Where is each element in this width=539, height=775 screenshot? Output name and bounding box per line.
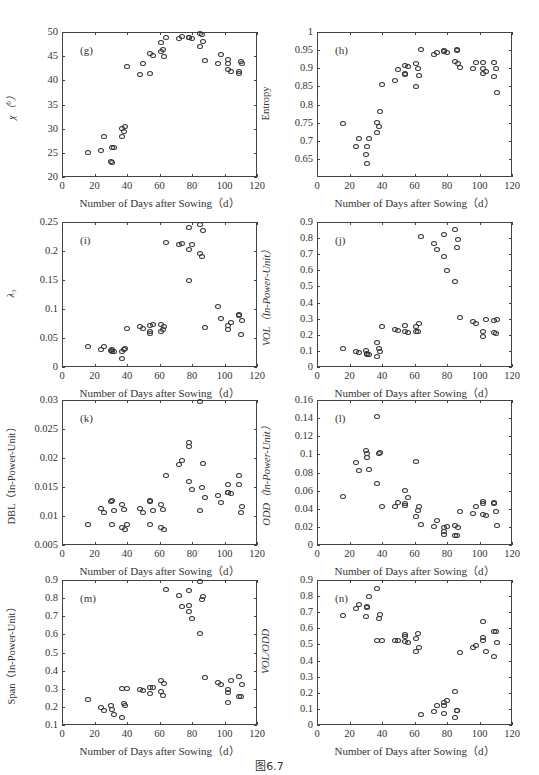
y-tick-mark (254, 707, 257, 708)
y-tick-mark (509, 254, 512, 255)
x-tick-mark (350, 364, 351, 367)
data-point (109, 160, 115, 165)
y-tick-mark (317, 123, 320, 124)
y-tick-label: 0.7 (273, 607, 313, 618)
y-tick-mark (62, 153, 65, 154)
data-point (457, 650, 463, 655)
data-point (340, 494, 346, 499)
x-tick-mark (127, 174, 128, 177)
panel-tag: (j) (335, 234, 345, 246)
data-point (147, 499, 153, 504)
x-tick-label: 100 (465, 549, 495, 560)
y-tick-mark (509, 725, 512, 726)
x-tick-label: 60 (145, 549, 175, 560)
data-point (363, 614, 369, 619)
x-tick-mark (257, 32, 258, 35)
y-tick-label: 0.3 (273, 672, 313, 683)
y-tick-mark (509, 238, 512, 239)
data-point (163, 587, 169, 592)
x-tick-label: 40 (112, 549, 142, 560)
y-tick-mark (509, 319, 512, 320)
y-tick-mark (317, 270, 320, 271)
y-tick-mark (509, 367, 512, 368)
data-point (483, 513, 489, 518)
x-axis-label: Number of Days after Sowing（d） (62, 562, 257, 578)
y-tick-mark (62, 309, 65, 310)
x-tick-mark (350, 580, 351, 583)
y-tick-label: 0.8 (273, 100, 313, 111)
y-tick-mark (317, 335, 320, 336)
y-tick-mark (509, 418, 512, 419)
x-tick-label: 40 (367, 371, 397, 382)
x-tick-label: 20 (80, 371, 110, 382)
data-point (218, 500, 224, 505)
x-tick-mark (127, 222, 128, 225)
y-tick-mark (509, 123, 512, 124)
x-tick-label: 120 (497, 729, 527, 740)
y-tick-mark (509, 105, 512, 106)
x-tick-mark (350, 722, 351, 725)
y-tick-mark (62, 653, 65, 654)
x-tick-label: 100 (465, 729, 495, 740)
data-point (225, 690, 231, 695)
data-point (480, 619, 486, 624)
x-tick-label: 80 (432, 729, 462, 740)
x-tick-mark (160, 364, 161, 367)
data-point (239, 504, 245, 509)
x-tick-mark (225, 580, 226, 583)
y-tick-label: 0.1 (18, 304, 58, 315)
y-tick-mark (509, 351, 512, 352)
x-axis-label: Number of Days after Sowing（d） (62, 194, 257, 210)
x-tick-label: 20 (80, 549, 110, 560)
y-tick-mark (317, 596, 320, 597)
data-point (340, 121, 346, 126)
y-tick-mark (62, 80, 65, 81)
y-tick-mark (509, 454, 512, 455)
y-tick-label: 0.75 (273, 118, 313, 129)
y-tick-mark (62, 671, 65, 672)
y-tick-mark (509, 335, 512, 336)
x-tick-mark (512, 542, 513, 545)
x-tick-mark (317, 400, 318, 403)
y-tick-label: 0.04 (273, 504, 313, 515)
y-tick-mark (254, 598, 257, 599)
y-tick-mark (62, 689, 65, 690)
data-point (441, 254, 447, 259)
panel-tag: (k) (80, 412, 93, 424)
data-point (480, 501, 486, 506)
y-tick-mark (509, 141, 512, 142)
y-tick-label: 0.1 (273, 346, 313, 357)
y-tick-label: 0.025 (18, 424, 58, 435)
y-tick-label: 0.6 (273, 265, 313, 276)
data-point (418, 712, 424, 717)
y-tick-label: 1 (273, 27, 313, 38)
data-point (457, 315, 463, 320)
data-point (163, 473, 169, 478)
y-tick-mark (317, 644, 320, 645)
panel-tag: (h) (335, 44, 348, 56)
x-tick-mark (62, 542, 63, 545)
x-tick-mark (350, 32, 351, 35)
x-tick-mark (512, 174, 513, 177)
x-tick-label: 120 (497, 549, 527, 560)
y-tick-label: 0.7 (273, 249, 313, 260)
data-point (491, 654, 497, 659)
y-axis-label: ODD（In-Power-Unit） (258, 393, 273, 553)
y-tick-mark (62, 545, 65, 546)
data-point (413, 61, 419, 66)
data-point (197, 508, 203, 513)
x-tick-label: 100 (465, 181, 495, 192)
x-tick-mark (415, 542, 416, 545)
x-tick-mark (350, 174, 351, 177)
x-tick-label: 80 (177, 729, 207, 740)
x-tick-label: 20 (80, 729, 110, 740)
data-point (215, 493, 221, 498)
y-tick-mark (509, 644, 512, 645)
data-point (416, 73, 422, 78)
x-tick-mark (127, 400, 128, 403)
data-point (402, 503, 408, 508)
x-tick-mark (95, 580, 96, 583)
y-tick-mark (317, 68, 320, 69)
x-tick-mark (225, 542, 226, 545)
y-tick-mark (62, 367, 65, 368)
